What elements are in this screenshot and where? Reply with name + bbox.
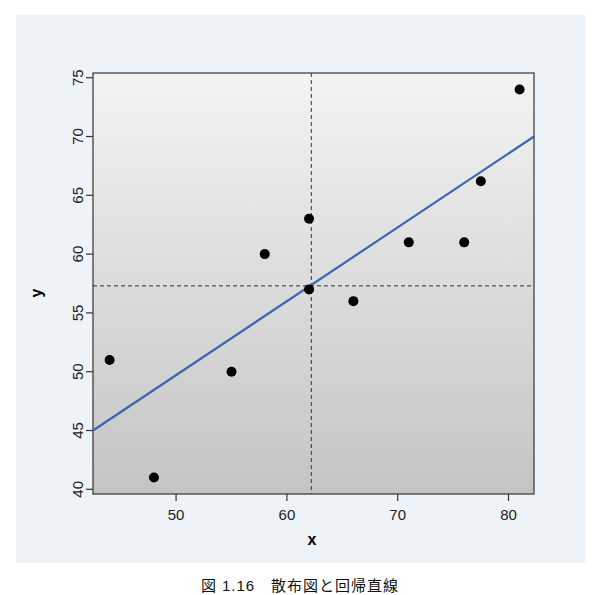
figure-caption: 図 1.16 散布図と回帰直線 — [0, 574, 600, 595]
x-tick-label: 80 — [500, 506, 517, 523]
data-point — [515, 84, 525, 94]
data-point — [304, 214, 314, 224]
x-tick-label: 60 — [279, 506, 296, 523]
data-point — [304, 284, 314, 294]
data-point — [459, 237, 469, 247]
y-tick-label: 40 — [69, 481, 86, 498]
data-point — [476, 176, 486, 186]
data-point — [105, 355, 115, 365]
data-point — [260, 249, 270, 259]
y-tick-label: 45 — [69, 422, 86, 439]
y-tick-label: 65 — [69, 187, 86, 204]
y-tick-label: 70 — [69, 128, 86, 145]
x-axis-label: x — [308, 531, 317, 548]
y-tick-label: 75 — [69, 69, 86, 86]
y-tick-label: 60 — [69, 246, 86, 263]
x-tick-label: 70 — [389, 506, 406, 523]
data-point — [404, 237, 414, 247]
data-point — [227, 367, 237, 377]
y-tick-label: 50 — [69, 363, 86, 380]
data-point — [348, 296, 358, 306]
data-point — [149, 473, 159, 483]
y-axis-label: y — [28, 288, 45, 297]
x-tick-label: 50 — [168, 506, 185, 523]
y-tick-label: 55 — [69, 305, 86, 322]
